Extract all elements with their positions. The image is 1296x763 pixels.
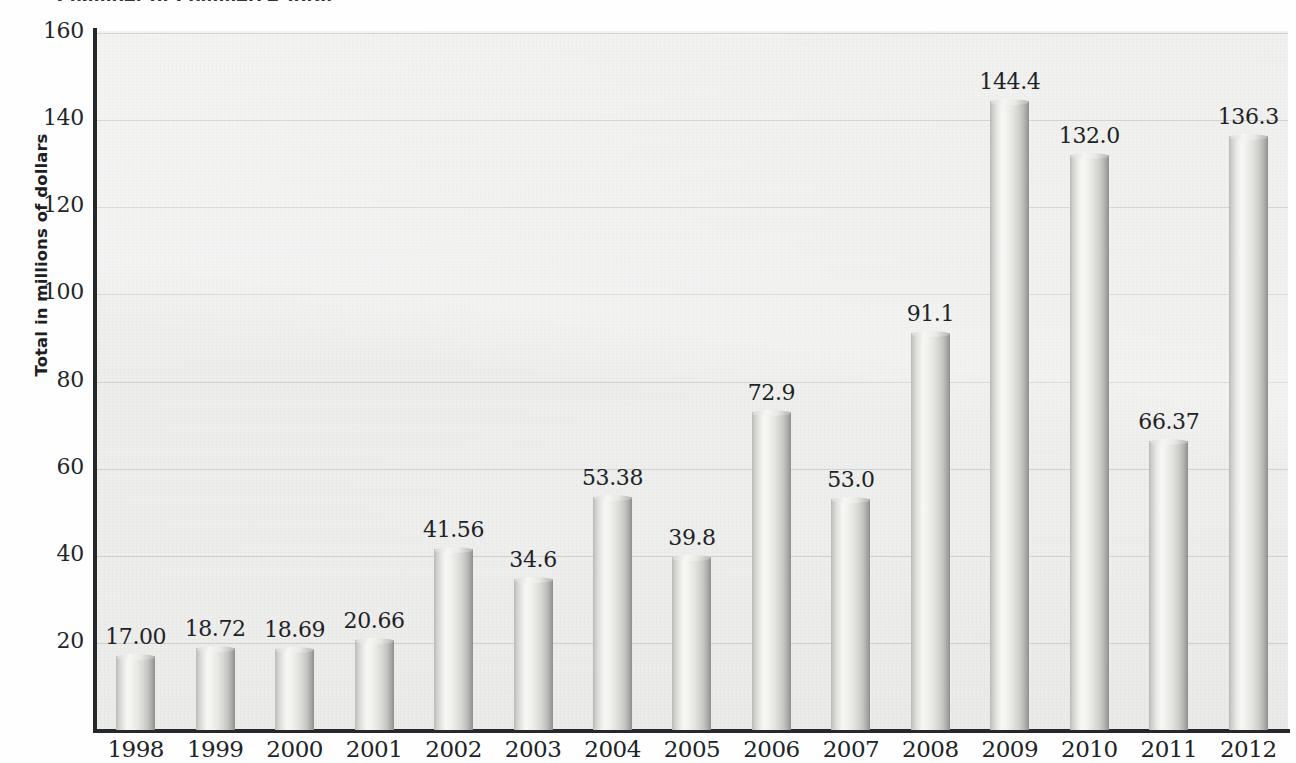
x-axis-tick-label: 2007 xyxy=(823,736,880,762)
bar-value-label: 39.8 xyxy=(668,525,715,550)
bar[interactable] xyxy=(116,656,155,730)
bar-top-cap xyxy=(911,331,950,337)
y-axis-title: Total in millions of dollars xyxy=(32,147,51,377)
x-axis-tick-label: 2008 xyxy=(902,736,959,762)
bar[interactable] xyxy=(990,101,1029,730)
bar-slot: 41.562002 xyxy=(414,0,493,763)
bar[interactable] xyxy=(196,648,235,730)
bar[interactable] xyxy=(752,412,791,730)
bar-value-label: 91.1 xyxy=(907,301,954,326)
x-axis-tick-label: 2000 xyxy=(266,736,323,762)
bar-top-cap xyxy=(1229,134,1268,140)
bar-value-label: 18.72 xyxy=(185,616,246,641)
bar-slot: 53.382004 xyxy=(573,0,652,763)
bar-top-cap xyxy=(275,647,314,653)
bar-value-label: 17.00 xyxy=(105,624,166,649)
bar[interactable] xyxy=(911,333,950,730)
bar-top-cap xyxy=(116,654,155,660)
bar-top-cap xyxy=(1070,153,1109,159)
x-axis-tick-label: 2003 xyxy=(505,736,562,762)
bar-top-cap xyxy=(355,638,394,644)
x-axis-tick-label: 2012 xyxy=(1220,736,1277,762)
bar[interactable] xyxy=(275,649,314,730)
y-axis-tick-label: 100 xyxy=(24,279,84,304)
bar-value-label: 66.37 xyxy=(1138,409,1199,434)
bar-slot: 136.32012 xyxy=(1209,0,1288,763)
bar[interactable] xyxy=(514,579,553,730)
bar-value-label: 53.0 xyxy=(827,467,874,492)
bar-top-cap xyxy=(990,99,1029,105)
y-axis-tick-label: 40 xyxy=(24,541,84,566)
y-axis-tick-label: 140 xyxy=(24,105,84,130)
bar-slot: 91.12008 xyxy=(891,0,970,763)
bar-slot: 132.02010 xyxy=(1050,0,1129,763)
bar-slot: 39.82005 xyxy=(652,0,731,763)
bar-slot: 34.62003 xyxy=(493,0,572,763)
bar-top-cap xyxy=(672,555,711,561)
bar-top-cap xyxy=(831,497,870,503)
x-axis-tick-label: 2006 xyxy=(743,736,800,762)
bar[interactable] xyxy=(1229,136,1268,730)
bar[interactable] xyxy=(831,499,870,730)
y-axis-tick-label: 20 xyxy=(24,628,84,653)
bar-slot: 20.662001 xyxy=(334,0,413,763)
bar-slot: 53.02007 xyxy=(811,0,890,763)
x-axis-tick-label: 1998 xyxy=(107,736,164,762)
y-axis-tick-label: 160 xyxy=(24,18,84,43)
bar[interactable] xyxy=(1070,155,1109,730)
bar-value-label: 136.3 xyxy=(1218,104,1279,129)
x-axis-tick-label: 2009 xyxy=(982,736,1039,762)
bar-slot: 72.92006 xyxy=(732,0,811,763)
bar-top-cap xyxy=(196,646,235,652)
bar-value-label: 72.9 xyxy=(748,380,795,405)
bar-slot: 18.721999 xyxy=(175,0,254,763)
bar-top-cap xyxy=(434,547,473,553)
bar-slot: 17.001998 xyxy=(96,0,175,763)
y-axis-tick-label: 120 xyxy=(24,192,84,217)
bar-value-label: 132.0 xyxy=(1059,123,1120,148)
bar-value-label: 144.4 xyxy=(979,69,1040,94)
x-axis-tick-label: 2001 xyxy=(346,736,403,762)
bar-top-cap xyxy=(514,577,553,583)
bar-value-label: 41.56 xyxy=(423,517,484,542)
bar-value-label: 20.66 xyxy=(344,608,405,633)
x-axis-tick-label: 2002 xyxy=(425,736,482,762)
bar-slot: 18.692000 xyxy=(255,0,334,763)
y-axis-tick-label: 60 xyxy=(24,454,84,479)
x-axis-tick-label: 2011 xyxy=(1141,736,1198,762)
x-axis-tick-label: 2010 xyxy=(1061,736,1118,762)
bar[interactable] xyxy=(355,640,394,730)
bar[interactable] xyxy=(1149,441,1188,730)
bar-value-label: 53.38 xyxy=(582,465,643,490)
bar-value-label: 18.69 xyxy=(264,617,325,642)
bar-top-cap xyxy=(1149,439,1188,445)
x-axis-tick-label: 2005 xyxy=(664,736,721,762)
bar[interactable] xyxy=(434,549,473,730)
bar-slot: 144.42009 xyxy=(970,0,1049,763)
bar-top-cap xyxy=(593,495,632,501)
x-axis-tick-label: 1999 xyxy=(187,736,244,762)
bar[interactable] xyxy=(593,497,632,730)
x-axis-tick-label: 2004 xyxy=(584,736,641,762)
y-axis-tick-label: 80 xyxy=(24,367,84,392)
bar[interactable] xyxy=(672,557,711,730)
bar-top-cap xyxy=(752,410,791,416)
bar-chart-figure: Chamber of Commerce Total Total in milli… xyxy=(0,0,1296,763)
bar-slot: 66.372011 xyxy=(1129,0,1208,763)
bar-value-label: 34.6 xyxy=(509,547,556,572)
